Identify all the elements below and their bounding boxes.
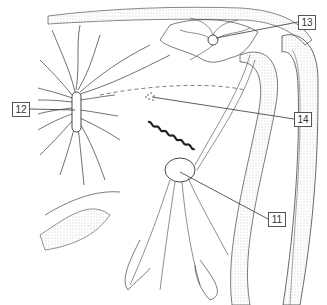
anatomical-illustration	[0, 0, 327, 305]
label-11: 11	[268, 212, 286, 227]
label-14: 14	[294, 112, 312, 127]
radiating-fibers	[38, 25, 170, 185]
label-13: 13	[298, 15, 316, 30]
right-tube	[282, 35, 318, 305]
structure-11	[165, 158, 195, 182]
dashed-boundary	[100, 85, 245, 95]
leader-12	[30, 109, 75, 110]
right-boundary	[231, 52, 278, 305]
coiled-tube	[147, 121, 195, 150]
label-12: 12	[12, 102, 30, 117]
node-13	[208, 35, 218, 45]
top-membrane	[48, 7, 312, 45]
cluster-14	[145, 92, 155, 101]
structure-12	[72, 92, 81, 132]
